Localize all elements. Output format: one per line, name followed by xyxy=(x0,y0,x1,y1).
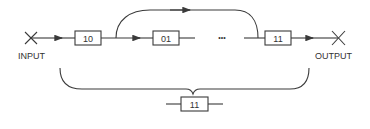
svg-text:10: 10 xyxy=(83,34,93,44)
chain-box-01: 01 xyxy=(153,31,179,45)
equivalent-box-11: 11 xyxy=(181,97,208,111)
ellipsis: ••• xyxy=(218,34,226,41)
series-bypass-diagram: INPUT 10 01 ••• 11 OUTPUT 11 xyxy=(0,0,370,129)
svg-text:01: 01 xyxy=(161,34,171,44)
input-label: INPUT xyxy=(18,51,46,61)
equivalence-brace xyxy=(60,68,309,94)
svg-text:11: 11 xyxy=(190,100,199,110)
bypass-arc xyxy=(116,10,258,38)
output-label: OUTPUT xyxy=(315,51,353,61)
svg-text:11: 11 xyxy=(273,34,282,44)
chain-box-11: 11 xyxy=(265,31,291,45)
chain-box-10: 10 xyxy=(75,31,101,45)
